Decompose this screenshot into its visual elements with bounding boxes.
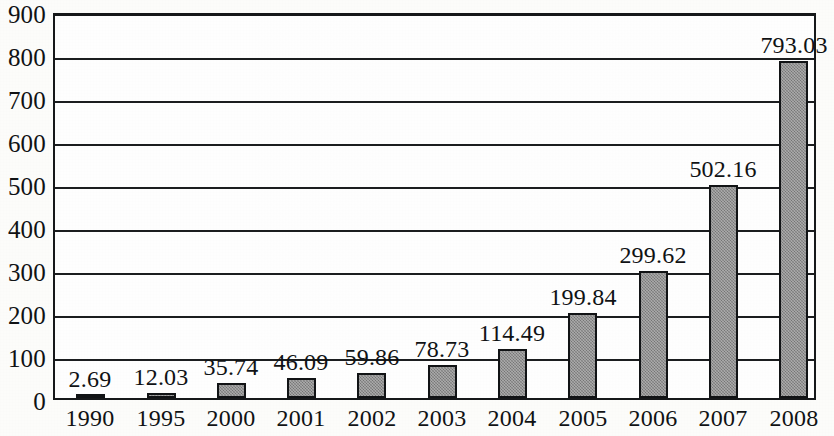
- data-label-2005: 199.84: [528, 285, 638, 309]
- bar-2001: [287, 378, 316, 398]
- y-tick-label-900: 900: [0, 2, 46, 27]
- data-label-2008: 793.03: [739, 33, 834, 57]
- gridline-500: [55, 187, 814, 189]
- bar-2002: [357, 373, 386, 398]
- data-label-2006: 299.62: [598, 243, 708, 267]
- bar-2005: [568, 313, 597, 398]
- y-tick-label-600: 600: [0, 131, 46, 156]
- gridline-200: [55, 316, 814, 318]
- bar-1990: [76, 394, 105, 398]
- bar-2003: [428, 365, 457, 398]
- bar-1995: [147, 393, 176, 398]
- bar-chart-figure: 900 800 700 600 500 400 300 200 100 0 2.…: [0, 0, 834, 436]
- y-tick-label-500: 500: [0, 174, 46, 199]
- y-tick-label-200: 200: [0, 303, 46, 328]
- x-tick-label-2008: 2008: [739, 406, 834, 430]
- gridline-300: [55, 273, 814, 275]
- y-tick-label-800: 800: [0, 45, 46, 70]
- bar-2004: [498, 349, 527, 398]
- bar-2000: [217, 383, 246, 398]
- bar-2008: [779, 61, 808, 398]
- bar-2006: [639, 271, 668, 398]
- gridline-700: [55, 101, 814, 103]
- gridline-600: [55, 144, 814, 146]
- gridline-400: [55, 230, 814, 232]
- y-tick-label-400: 400: [0, 217, 46, 242]
- gridline-800: [55, 58, 814, 60]
- bar-2007: [709, 185, 738, 398]
- data-label-2004: 114.49: [457, 321, 567, 345]
- data-label-2007: 502.16: [668, 157, 778, 181]
- y-tick-label-700: 700: [0, 88, 46, 113]
- y-tick-label-300: 300: [0, 260, 46, 285]
